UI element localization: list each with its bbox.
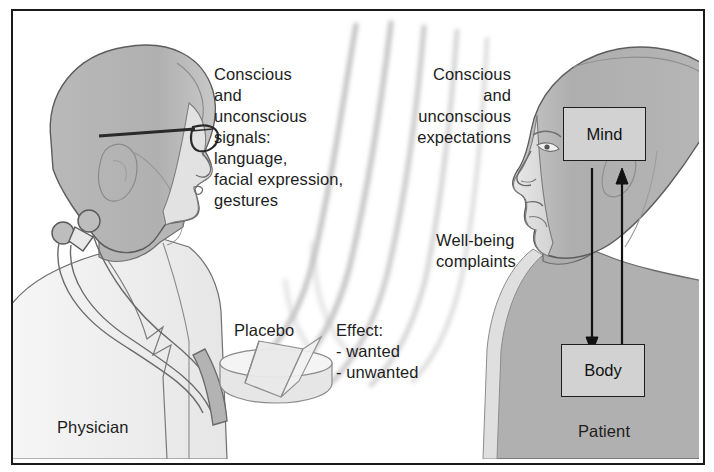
mind-box-label: Mind xyxy=(587,125,623,144)
physician-figure xyxy=(13,45,227,459)
patient-label: Patient xyxy=(578,421,630,442)
body-box: Body xyxy=(561,344,645,397)
figure-frame: Conscious and unconscious signals: langu… xyxy=(11,9,705,465)
effect-list-text: Effect: - wanted - unwanted xyxy=(336,320,419,383)
placebo-tablet xyxy=(220,337,332,403)
physician-signals-text: Conscious and unconscious signals: langu… xyxy=(214,64,343,211)
placebo-label: Placebo xyxy=(234,320,294,341)
figure-canvas: Conscious and unconscious signals: langu… xyxy=(0,0,714,472)
body-box-label: Body xyxy=(584,361,622,380)
physician-label: Physician xyxy=(57,417,129,438)
patient-expectations-text: Conscious and unconscious expectations xyxy=(384,64,511,148)
wellbeing-complaints-text: Well-being complaints xyxy=(436,230,516,272)
mind-box: Mind xyxy=(563,107,646,161)
